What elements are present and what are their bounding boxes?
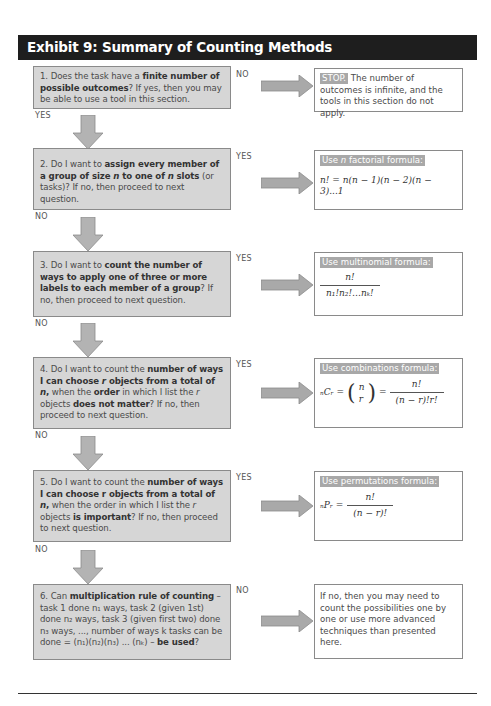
yes-label: YES: [236, 254, 252, 263]
question-number: 1.: [40, 71, 48, 81]
exhibit-title: Exhibit 9: Summary of Counting Methods: [27, 39, 332, 55]
result-permutations-box: Use permutations formula: ₙPᵣ = n!(n − r…: [314, 471, 463, 541]
formula-tag: Use combinations formula:: [320, 363, 439, 374]
result-multinomial-box: Use multinomial formula: n!n₁!n₂!…nₖ!: [314, 252, 463, 316]
result-factorial-box: Use n factorial formula: n! = n(n − 1)(n…: [314, 150, 463, 210]
no-label: NO: [236, 586, 249, 595]
right-arrow-icon: [261, 274, 313, 296]
yes-label: YES: [35, 111, 51, 120]
right-arrow-icon: [261, 382, 313, 404]
question-3-box: 3. Do I want to count the number of ways…: [33, 251, 231, 317]
right-arrow-icon: [261, 495, 313, 517]
question-number: 4.: [40, 364, 48, 374]
question-6-box: 6. Can multiplication rule of counting –…: [33, 584, 231, 660]
no-label: NO: [35, 545, 48, 554]
question-4-box: 4. Do I want to count the number of ways…: [33, 357, 231, 429]
right-arrow-icon: [261, 610, 313, 632]
footer-divider: [18, 693, 477, 694]
no-label: NO: [35, 431, 48, 440]
down-arrow-icon: [73, 436, 103, 470]
stop-tag: STOP.: [320, 73, 348, 84]
question-5-box: 5. Do I want to count the number of ways…: [33, 470, 231, 542]
question-text: Does the task have a: [51, 71, 143, 81]
right-arrow-icon: [261, 172, 313, 194]
down-arrow-icon: [73, 217, 103, 251]
no-label: NO: [236, 70, 249, 79]
right-arrow-icon: [261, 75, 313, 97]
factorial-formula: n! = n(n − 1)(n − 2)(n − 3)...1: [320, 175, 457, 198]
down-arrow-icon: [73, 550, 103, 584]
question-number: 2.: [40, 159, 48, 169]
permutations-formula: ₙPᵣ = n!(n − r)!: [320, 492, 457, 520]
result-combinations-box: Use combinations formula: ₙCᵣ = ( nr ) =…: [314, 358, 463, 428]
yes-label: YES: [236, 360, 252, 369]
no-label: NO: [35, 212, 48, 221]
question-text: Do I want to: [51, 159, 105, 169]
result-advanced-box: If no, then you may need to count the po…: [314, 584, 463, 659]
question-2-box: 2. Do I want to assign every member of a…: [33, 148, 231, 210]
question-1-box: 1. Does the task have a finite number of…: [33, 66, 231, 109]
formula-tag: Use permutations formula:: [320, 476, 439, 487]
question-number: 5.: [40, 477, 48, 487]
result-stop-box: STOP. The number of outcomes is infinite…: [314, 68, 463, 112]
yes-label: YES: [236, 473, 252, 482]
yes-label: YES: [236, 152, 252, 161]
exhibit-header: Exhibit 9: Summary of Counting Methods: [18, 35, 477, 60]
no-label: NO: [35, 319, 48, 328]
question-number: 6.: [40, 591, 48, 601]
question-text: Do I want to: [51, 260, 105, 270]
down-arrow-icon: [73, 115, 103, 149]
combinations-formula: ₙCᵣ = ( nr ) = n!(n − r)!r!: [320, 379, 457, 407]
result-text: If no, then you may need to count the po…: [320, 591, 446, 647]
question-number: 3.: [40, 260, 48, 270]
multinomial-formula: n!n₁!n₂!…nₖ!: [320, 272, 457, 300]
formula-tag: Use multinomial formula:: [320, 257, 433, 268]
down-arrow-icon: [73, 323, 103, 357]
formula-tag: Use n factorial formula:: [320, 155, 425, 166]
